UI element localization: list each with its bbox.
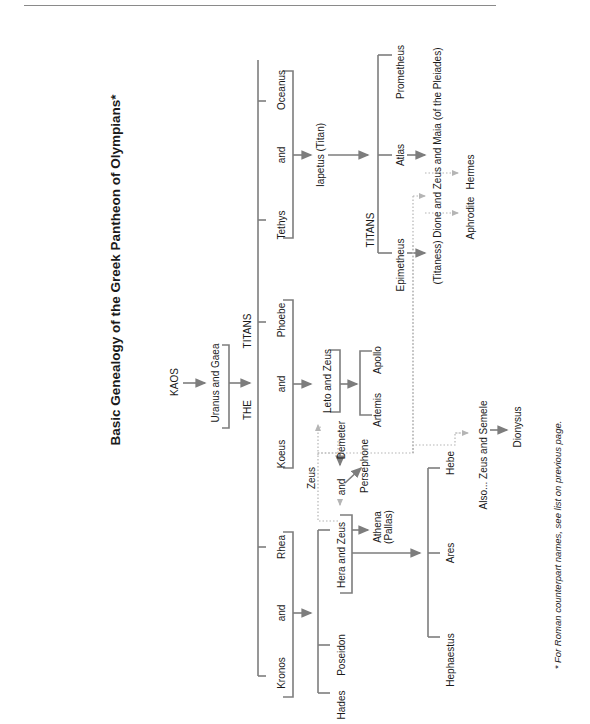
label-titans-iapetus: TITANS	[365, 213, 376, 248]
node-athena: Athena (Pallas)	[372, 510, 394, 544]
label-titans: TITANS	[242, 314, 253, 349]
genealogy-page: Basic Genealogy of the Greek Pantheon of…	[0, 0, 590, 724]
node-zeus-demeter-partner: Zeus	[306, 467, 317, 489]
node-hermes: Hermes	[465, 154, 476, 189]
node-apollo: Apollo	[372, 346, 383, 374]
page-title: Basic Genealogy of the Greek Pantheon of…	[108, 94, 123, 445]
label-and-tethys-oceanus: and	[276, 147, 287, 164]
node-also-zeus-semele: Also... Zeus and Semele	[478, 401, 489, 510]
node-aphrodite: Aphrodite	[465, 197, 476, 240]
node-dione-zeus-maia: (Titaness) Dione and Zeus and Maia (of t…	[432, 48, 443, 285]
node-hera-zeus: Hera and Zeus	[336, 522, 347, 588]
label-and-zeus-demeter: and	[336, 479, 347, 496]
node-hebe: Hebe	[445, 451, 456, 475]
node-kaos: KAOS	[169, 368, 180, 396]
node-leto-zeus: Leto and Zeus	[322, 349, 333, 413]
footnote: * For Roman counterpart names, see list …	[552, 421, 563, 670]
label-the: THE	[242, 400, 253, 420]
node-kronos: Kronos	[276, 657, 287, 689]
node-koeus: Koeus	[276, 440, 287, 468]
node-oceanus: Oceanus	[276, 70, 287, 110]
node-prometheus: Prometheus	[395, 45, 406, 99]
node-artemis: Artemis	[372, 393, 383, 427]
node-iapetus: Iapetus (Titan)	[315, 123, 326, 187]
node-dionysus: Dionysus	[512, 406, 523, 447]
node-hades: Hades	[336, 691, 347, 720]
node-atlas: Atlas	[395, 144, 406, 166]
node-phoebe: Phoebe	[276, 303, 287, 337]
node-demeter: Demeter	[336, 421, 347, 459]
node-poseidon: Poseidon	[336, 634, 347, 676]
node-hephaestus: Hephaestus	[445, 633, 456, 686]
node-epimetheus: Epimetheus	[395, 239, 406, 292]
node-tethys: Tethys	[276, 211, 287, 240]
node-ares: Ares	[445, 543, 456, 564]
genealogy-lines	[0, 0, 590, 724]
label-and-koeus-phoebe: and	[276, 376, 287, 393]
node-uranus-gaea: Uranus and Gaea	[210, 344, 221, 423]
node-persephone: Persephone	[359, 439, 370, 493]
label-and-kronos-rhea: and	[276, 605, 287, 622]
node-rhea: Rhea	[276, 535, 287, 559]
